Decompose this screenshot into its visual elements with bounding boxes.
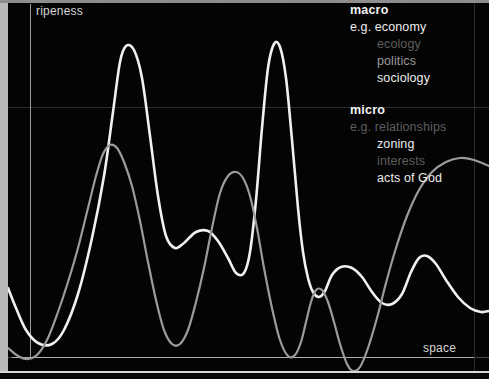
legend-item-micro-3: acts of God [350,170,485,187]
legend-item-micro-2: interests [350,153,485,170]
frame-edge-bottom [0,372,489,379]
legend-item-macro-2: politics [350,53,485,70]
legend: macro e.g. economyecologypoliticssociolo… [350,2,485,189]
legend-heading-micro: micro [350,102,485,119]
legend-item-micro-0: e.g. relationships [350,119,485,136]
legend-items-micro: e.g. relationshipszoninginterestsacts of… [350,119,485,187]
frame-baseline [0,371,489,373]
y-axis-label: ripeness [36,4,83,18]
chart-screenshot: ripeness space macro e.g. economyecology… [0,0,489,379]
legend-heading-macro: macro [350,2,485,19]
legend-item-micro-1: zoning [350,136,485,153]
legend-group-macro: macro e.g. economyecologypoliticssociolo… [350,2,485,87]
legend-item-macro-0: e.g. economy [350,19,485,36]
legend-spacer [350,89,485,102]
frame-edge-left [0,0,8,379]
legend-item-macro-1: ecology [350,36,485,53]
legend-group-micro: micro e.g. relationshipszoninginterestsa… [350,102,485,187]
legend-item-macro-3: sociology [350,70,485,87]
legend-items-macro: e.g. economyecologypoliticssociology [350,19,485,87]
x-axis-label: space [423,341,456,355]
frame-edge-top [0,0,489,3]
